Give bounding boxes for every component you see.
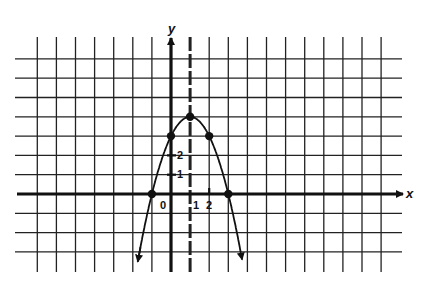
x-tick-label-1: 1 — [193, 199, 199, 211]
x-axis-label: x — [405, 186, 414, 201]
y-axis-label: y — [167, 21, 176, 36]
parabola-path — [138, 117, 242, 262]
data-point — [167, 132, 175, 140]
y-tick-label-2: 2 — [177, 149, 183, 161]
data-point — [186, 113, 194, 121]
origin-label: 0 — [160, 199, 166, 211]
y-tick-label-1: 1 — [177, 168, 183, 180]
parabola-curve — [138, 117, 242, 262]
data-point — [148, 190, 156, 198]
parabola-graph: y x 0 1 2 1 2 — [0, 0, 422, 283]
grid-lines — [15, 37, 402, 272]
x-tick-label-2: 2 — [206, 199, 212, 211]
data-point — [205, 132, 213, 140]
data-point — [224, 190, 232, 198]
